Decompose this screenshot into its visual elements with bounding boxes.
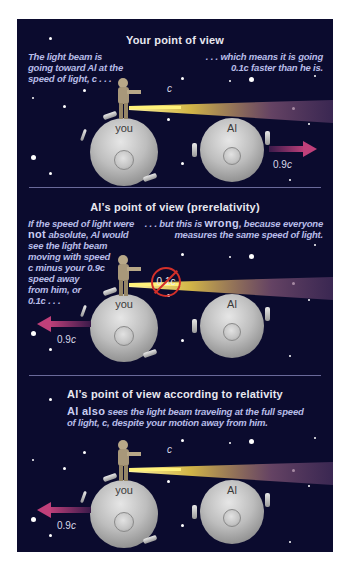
astronaut-icon xyxy=(113,77,143,123)
al-label: Al xyxy=(200,298,264,310)
emphasis-wrong: wrong xyxy=(204,217,239,229)
star-icon xyxy=(83,451,86,454)
star-icon xyxy=(308,485,310,487)
section-title: Al’s point of view (prerelativity) xyxy=(17,201,333,213)
caption-fragment: absolute, Al would xyxy=(46,229,128,240)
star-icon xyxy=(49,534,52,537)
star-icon xyxy=(314,244,316,246)
solar-panel-icon xyxy=(192,143,197,157)
caption-line: Al also sees the light beam traveling at… xyxy=(67,406,317,417)
star-icon xyxy=(289,541,291,543)
caption-right: . . . but this is wrong, because everyon… xyxy=(143,218,323,240)
solar-panel-icon xyxy=(265,307,270,321)
al-label: Al xyxy=(200,122,264,134)
section-title: Your point of view xyxy=(17,34,333,46)
star-icon xyxy=(314,437,316,439)
star-icon xyxy=(31,517,36,522)
crossed-speed-label: 0.1c xyxy=(153,276,179,287)
star-icon xyxy=(181,162,184,165)
star-icon xyxy=(49,37,52,40)
hatch-icon xyxy=(114,326,134,346)
caption-fragment: sees the light beam traveling at the ful… xyxy=(105,406,303,417)
velocity-unit: c xyxy=(71,334,76,345)
caption-line: measures the same speed of light. xyxy=(143,229,323,240)
hatch-with-al-icon xyxy=(223,509,241,527)
solar-panel-icon xyxy=(192,505,197,519)
hatch-with-al-icon xyxy=(223,147,241,165)
velocity-value: 0.9 xyxy=(57,334,71,345)
caption-line: . . . but this is wrong, because everyon… xyxy=(143,218,323,229)
astronaut-icon xyxy=(113,254,143,300)
velocity-value: 0.9 xyxy=(57,520,71,531)
velocity-arrow-right-icon xyxy=(269,141,317,157)
caption-line: see the light beam xyxy=(28,240,138,251)
section-al-relativity: Al’s point of view according to relativi… xyxy=(17,376,333,552)
section-title: Al’s point of view according to relativi… xyxy=(17,388,333,400)
hatch-with-al-icon xyxy=(223,323,241,341)
star-icon xyxy=(63,105,66,108)
solar-panel-icon xyxy=(192,319,197,333)
caption-fragment: . . . but this is xyxy=(145,218,205,229)
section-al-prerelativity: Al’s point of view (prerelativity) If th… xyxy=(17,188,333,375)
star-icon xyxy=(49,398,52,401)
star-icon xyxy=(181,524,184,527)
al-velocity-label: 0.9c xyxy=(273,159,292,170)
star-icon xyxy=(49,172,52,175)
caption-fragment: , because everyone xyxy=(239,218,323,229)
star-icon xyxy=(63,467,66,470)
star-icon xyxy=(314,75,316,77)
forbidden-speed-icon: 0.1c xyxy=(151,267,181,297)
star-icon xyxy=(49,348,52,351)
caption-right-line1: . . . which means it is going xyxy=(183,51,323,62)
emphasis-al-also: Al also xyxy=(67,405,105,417)
you-label: you xyxy=(90,484,158,496)
al-sphere: Al xyxy=(200,480,264,544)
star-icon xyxy=(289,179,291,181)
velocity-unit: c xyxy=(71,520,76,531)
section-your-point-of-view: Your point of view The light beam is goi… xyxy=(17,19,333,187)
al-sphere: Al xyxy=(200,294,264,358)
star-icon xyxy=(83,89,86,92)
star-icon xyxy=(31,155,36,160)
velocity-arrow-left-icon xyxy=(37,316,91,332)
hatch-icon xyxy=(114,150,134,170)
caption-right: . . . which means it is going 0.1c faste… xyxy=(183,51,323,73)
star-icon xyxy=(31,331,36,336)
relativity-diagram-panel: Your point of view The light beam is goi… xyxy=(17,19,333,552)
light-beam-icon xyxy=(129,441,333,485)
caption-line: of light, c, despite your motion away fr… xyxy=(67,417,317,428)
velocity-unit: c xyxy=(287,159,292,170)
antenna-icon xyxy=(80,129,87,141)
al-sphere: Al xyxy=(200,118,264,182)
you-velocity-label: 0.9c xyxy=(57,520,76,531)
hatch-icon xyxy=(114,512,134,532)
caption-line: not absolute, Al would xyxy=(28,229,138,240)
velocity-value: 0.9 xyxy=(273,159,287,170)
caption-right-line2: 0.1c faster than he is. xyxy=(183,62,323,73)
velocity-arrow-left-icon xyxy=(37,502,91,518)
caption-left: The light beam is going toward Al at the… xyxy=(28,51,126,84)
beam-speed-label: c xyxy=(167,444,172,455)
star-icon xyxy=(289,355,291,357)
light-beam-icon xyxy=(129,79,333,123)
star-icon xyxy=(32,459,34,461)
star-icon xyxy=(181,339,184,342)
solar-panel-icon xyxy=(265,493,270,507)
you-label: you xyxy=(90,122,158,134)
astronaut-icon xyxy=(113,439,143,485)
caption: Al also sees the light beam traveling at… xyxy=(67,406,317,428)
emphasis-not: not xyxy=(28,228,46,240)
star-icon xyxy=(32,97,34,99)
star-icon xyxy=(308,123,310,125)
al-label: Al xyxy=(200,484,264,496)
beam-speed-label: c xyxy=(167,83,172,94)
you-velocity-label: 0.9c xyxy=(57,334,76,345)
